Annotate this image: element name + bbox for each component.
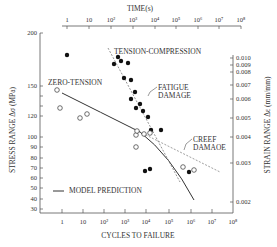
svg-text:0.003: 0.003 [236,159,251,166]
legend-model-prediction: MODEL PREDICTION [69,186,142,195]
svg-text:10²: 10² [100,218,109,225]
svg-text:10⁶: 10⁶ [187,218,196,225]
right-axis-labels: 0.010 0.009 0.008 0.007 0.006 0.005 0.00… [236,54,251,205]
tension-compression-points [65,53,191,174]
svg-text:90: 90 [31,143,38,150]
svg-text:10: 10 [86,16,93,23]
svg-text:1: 1 [60,218,63,225]
top-axis-labels: 1 10 10² 10³ 10⁴ 10⁵ 10⁶ 10⁷ 10⁸ [65,16,246,23]
svg-text:50: 50 [31,184,38,191]
svg-text:80: 80 [31,154,38,161]
svg-text:0.002: 0.002 [236,198,251,205]
svg-text:0.006: 0.006 [236,95,251,102]
top-axis-ticks [67,26,241,29]
svg-text:10⁵: 10⁵ [172,16,181,23]
svg-text:10²: 10² [107,16,116,23]
svg-text:0.008: 0.008 [236,68,251,75]
svg-text:60: 60 [31,174,38,181]
svg-text:70: 70 [31,164,38,171]
fatigue-leader [148,87,157,96]
y2-axis-title: STRAIN RANGE Δε (mm/mm) [263,76,272,173]
left-axis-ticks [40,33,43,209]
svg-text:30: 30 [31,205,38,212]
svg-text:10: 10 [80,218,87,225]
zero-tension-label: ZERO-TENSION [48,78,103,87]
svg-text:10⁷: 10⁷ [215,16,224,23]
svg-text:0.010: 0.010 [236,54,251,61]
svg-text:0.004: 0.004 [236,133,251,140]
svg-text:10⁴: 10⁴ [142,218,152,225]
bottom-axis-labels: 1 10 10² 10³ 10⁴ 10⁵ 10⁶ 10⁷ 10⁸ [60,218,238,225]
svg-text:10⁵: 10⁵ [165,218,174,225]
svg-text:10⁶: 10⁶ [194,16,203,23]
model-prediction-curve [62,93,194,200]
svg-text:10⁴: 10⁴ [151,16,161,23]
svg-text:0.007: 0.007 [236,81,251,88]
svg-text:10³: 10³ [121,218,130,225]
svg-text:0.005: 0.005 [236,114,251,121]
svg-text:1: 1 [65,16,68,23]
tension-compression-label: TENSION-COMPRESSION [114,47,202,56]
svg-text:120: 120 [27,112,37,119]
svg-text:200: 200 [27,29,37,36]
svg-text:100: 100 [27,133,37,140]
svg-text:40: 40 [31,195,38,202]
svg-text:10⁷: 10⁷ [208,218,217,225]
right-axis-ticks [230,58,233,202]
creep-label-2: DAMAOE [193,143,226,152]
y-axis-title: STRESS RANGE Δσ (MPa) [8,86,17,173]
left-axis-labels: 200 150 120 100 90 80 70 60 50 40 30 [27,29,37,212]
time-axis-title: TIME(s) [127,4,154,13]
svg-text:10⁸: 10⁸ [229,218,239,225]
svg-text:10⁸: 10⁸ [237,16,247,23]
svg-text:10³: 10³ [129,16,138,23]
fatigue-label-2: DAMAGE [158,91,191,100]
creep-leader [184,139,192,150]
chart: TIME(s) 1 10 10² 10³ 10⁴ 10⁵ 10⁶ 10⁷ 10⁸ [0,0,277,247]
svg-text:150: 150 [27,82,37,89]
x-axis-title: CYCLES TO FAILURE [101,231,175,240]
svg-text:0.009: 0.009 [236,61,251,68]
bottom-axis-ticks [62,209,212,213]
